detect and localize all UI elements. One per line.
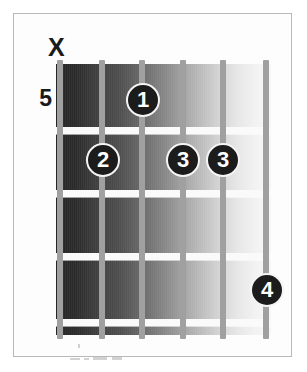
string-2: [99, 60, 105, 339]
fret-line-3: [56, 253, 271, 260]
fretboard: [56, 64, 271, 335]
finger-dot-3-string-5: 3: [206, 143, 240, 177]
fret-line-2: [56, 190, 271, 197]
string-4: [180, 60, 186, 339]
scan-artifact-3: [84, 358, 89, 360]
scan-artifact-2: [70, 358, 80, 360]
scan-artifact-4: [93, 357, 107, 360]
scan-artifact-5: [112, 357, 122, 360]
finger-dot-4-string-6: 4: [250, 273, 284, 307]
finger-dot-3-string-4: 3: [166, 143, 200, 177]
string-5: [220, 60, 226, 339]
finger-dot-2-string-2: 2: [86, 143, 120, 177]
string-1: [57, 60, 63, 339]
start-fret-number-label: 5: [30, 85, 52, 111]
fretboard-grain-texture: [56, 64, 271, 335]
fret-line-4: [56, 319, 271, 326]
fret-line-1: [56, 127, 271, 134]
scan-artifact-1: [78, 344, 80, 348]
muted-string-x-marker: X: [44, 33, 68, 61]
finger-dot-1-string-3: 1: [126, 83, 160, 117]
guitar-chord-diagram: X 5 12334: [0, 0, 307, 372]
chord-diagram-page: X 5 12334: [0, 0, 307, 372]
